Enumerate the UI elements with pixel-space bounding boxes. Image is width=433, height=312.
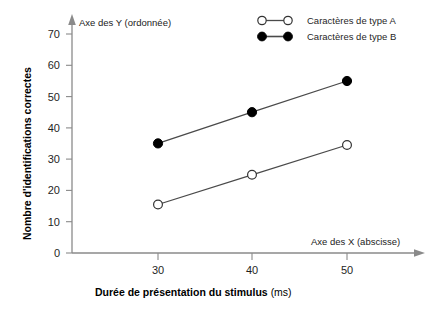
y-tick-label-50: 50: [34, 92, 60, 103]
series-b-markers: [153, 76, 351, 148]
y-tick-label-60: 60: [34, 60, 60, 71]
y-axis-title: Nombre d'identifications correctes: [22, 67, 33, 240]
plot-area: [0, 0, 433, 312]
y-axis-ticks: [66, 34, 72, 253]
chart-container: 0 10 20 30 40 50 60 70 30 40 50 Axe des …: [0, 0, 433, 312]
x-axis-ticks: [158, 253, 347, 260]
y-tick-label-70: 70: [34, 29, 60, 40]
y-tick-label-0: 0: [34, 248, 60, 259]
y-axis-note: Axe des Y (ordonnée): [79, 18, 171, 28]
x-axis-note: Axe des X (abscisse): [311, 237, 400, 247]
x-tick-label-50: 50: [332, 265, 362, 276]
legend-sample-series-b: [258, 32, 293, 41]
series-a-markers: [154, 141, 352, 209]
legend-sample-series-a: [258, 16, 292, 24]
y-tick-label-20: 20: [34, 185, 60, 196]
legend-label-series-a: Caractères de type A: [307, 16, 396, 26]
x-tick-label-30: 30: [143, 265, 173, 276]
y-tick-label-40: 40: [34, 123, 60, 134]
x-axis-title-text: Durée de présentation du stimulus: [95, 286, 268, 298]
y-tick-label-10: 10: [34, 217, 60, 228]
x-axis-title-unit: (ms): [271, 286, 292, 298]
x-axis-title: Durée de présentation du stimulus (ms): [95, 287, 292, 298]
x-tick-label-40: 40: [237, 265, 267, 276]
y-axis: [68, 14, 76, 253]
y-tick-label-30: 30: [34, 154, 60, 165]
legend-label-series-b: Caractères de type B: [307, 32, 396, 42]
x-axis: [72, 249, 425, 257]
